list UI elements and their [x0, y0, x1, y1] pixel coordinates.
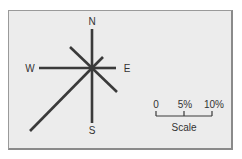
- spoke-se: [92, 68, 117, 92]
- direction-label-n: N: [88, 16, 95, 27]
- scale-label-10: 10%: [204, 99, 224, 110]
- direction-label-w: W: [25, 63, 35, 74]
- wind-rose-spokes: [30, 29, 117, 131]
- wind-rose-diagram: NESW 0 5% 10% Scale: [0, 0, 242, 159]
- spoke-ne: [92, 57, 103, 68]
- direction-label-e: E: [124, 63, 131, 74]
- scale-label-5: 5%: [178, 99, 193, 110]
- direction-label-s: S: [89, 125, 96, 136]
- scale-label-0: 0: [153, 99, 159, 110]
- spoke-sw: [30, 68, 92, 131]
- scale-title: Scale: [171, 122, 196, 133]
- spoke-nw: [70, 47, 92, 68]
- scale-legend: 0 5% 10% Scale: [153, 99, 224, 133]
